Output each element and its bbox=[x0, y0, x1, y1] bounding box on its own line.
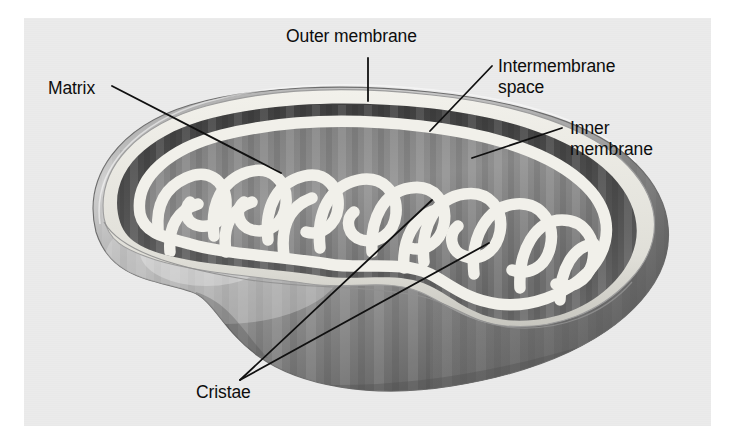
label-intermembrane-space-line2: space bbox=[498, 77, 544, 97]
label-intermembrane-space: Intermembranespace bbox=[498, 56, 615, 98]
mitochondrion-illustration bbox=[0, 0, 737, 444]
label-cristae: Cristae bbox=[196, 382, 251, 403]
label-matrix: Matrix bbox=[48, 78, 95, 99]
label-inner-membrane-line1: Inner bbox=[570, 118, 609, 138]
figure-page: Outer membrane Intermembranespace Innerm… bbox=[0, 0, 737, 444]
label-inner-membrane-line2: membrane bbox=[570, 139, 653, 159]
label-outer-membrane: Outer membrane bbox=[286, 26, 417, 47]
label-intermembrane-space-line1: Intermembrane bbox=[498, 56, 615, 76]
label-inner-membrane: Innermembrane bbox=[570, 118, 653, 160]
